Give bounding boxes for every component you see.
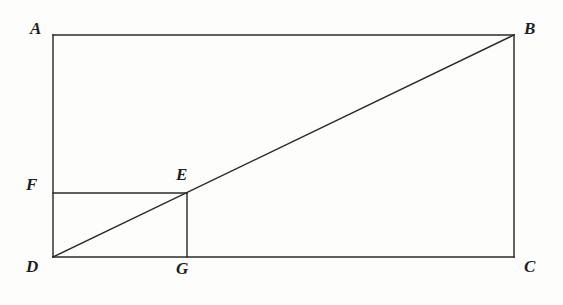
- vertex-label-G: G: [176, 260, 188, 277]
- vertex-label-C: C: [524, 258, 536, 275]
- figure-canvas: [0, 0, 563, 305]
- vertex-label-A: A: [30, 20, 42, 37]
- vertex-label-B: B: [524, 20, 536, 37]
- vertex-label-E: E: [176, 166, 188, 183]
- geometry-figure: A B C D E F G: [0, 0, 563, 305]
- vertex-label-D: D: [26, 258, 38, 275]
- segment-diagonal-DB: [53, 35, 514, 257]
- vertex-label-F: F: [26, 176, 38, 193]
